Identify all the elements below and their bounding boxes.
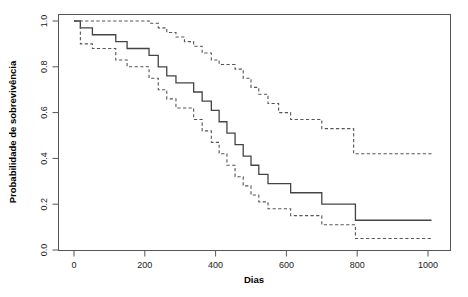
x-tick-label: 0 xyxy=(71,260,76,270)
x-tick-label: 200 xyxy=(137,260,152,270)
x-tick-label: 600 xyxy=(279,260,294,270)
kaplan-meier-survival-plot: 02004006008001000 0.00.20.40.60.81.0 Dia… xyxy=(0,0,468,297)
plot-background xyxy=(0,0,468,297)
x-tick-label: 1000 xyxy=(418,260,438,270)
y-tick-label: 0.6 xyxy=(39,106,49,119)
y-axis-title: Probabilidade de sobrevivência xyxy=(7,60,18,203)
y-tick-label: 0.4 xyxy=(39,152,49,165)
x-tick-label: 800 xyxy=(350,260,365,270)
x-axis-title: Dias xyxy=(244,274,264,285)
y-tick-label: 0.2 xyxy=(39,198,49,211)
y-tick-label: 0.8 xyxy=(39,61,49,74)
y-tick-label: 1.0 xyxy=(39,15,49,28)
chart-canvas: 02004006008001000 0.00.20.40.60.81.0 Dia… xyxy=(0,0,468,297)
y-tick-label: 0.0 xyxy=(39,244,49,257)
x-tick-label: 400 xyxy=(208,260,223,270)
